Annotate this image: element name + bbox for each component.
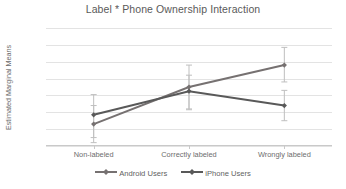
legend-marker-icon <box>181 168 203 178</box>
legend-label: iPhone Users <box>205 169 251 178</box>
chart-container: Label * Phone Ownership Interaction Esti… <box>0 0 346 189</box>
chart-title: Label * Phone Ownership Interaction <box>0 3 346 15</box>
data-point-marker <box>282 62 287 67</box>
chart-legend: Android UsersiPhone Users <box>0 168 346 178</box>
x-tick-label: Non-labeled <box>74 150 114 159</box>
y-axis-title-text: Estimated Marginal Means <box>5 44 14 129</box>
data-point-marker <box>91 112 96 117</box>
series-layer <box>46 28 332 146</box>
legend-item-1[interactable]: Android Users <box>95 168 167 178</box>
x-tick-label: Wrongly labeled <box>258 150 311 159</box>
data-point-marker <box>186 89 191 94</box>
x-tick-mark <box>189 146 190 149</box>
x-tick-label: Correctly labeled <box>161 150 216 159</box>
legend-item-2[interactable]: iPhone Users <box>181 168 251 178</box>
x-tick-mark <box>284 146 285 149</box>
y-axis-title: Estimated Marginal Means <box>2 28 16 146</box>
data-point-marker <box>91 121 96 126</box>
plot-area: 3234363840424446 Non-labeledCorrectly la… <box>46 28 332 146</box>
legend-marker-icon <box>95 168 117 178</box>
legend-label: Android Users <box>119 169 167 178</box>
data-point-marker <box>282 103 287 108</box>
x-tick-mark <box>94 146 95 149</box>
